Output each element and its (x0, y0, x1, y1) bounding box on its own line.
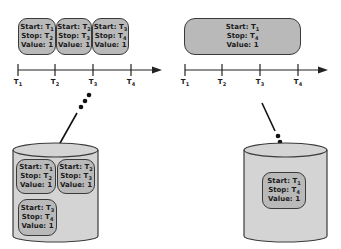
left-tick-label: T4 (127, 78, 135, 87)
left-storage-record-1: Start: T1 Stop: T2 Value: 1 (16, 159, 56, 194)
right-tick-label: T3 (256, 78, 264, 87)
left-segment-3: Start: T3 Stop: T4 Value: 1 (92, 18, 129, 55)
right-timeline-axis (185, 64, 328, 76)
left-tick-label: T2 (51, 78, 59, 87)
left-segment-2: Start: T2 Stop: T3 Value: 1 (56, 18, 92, 55)
right-segment-1: Start: T1 Stop: T4 Value: 1 (184, 18, 301, 55)
right-tick-label: T4 (294, 78, 302, 87)
right-storage-record-1: Start: T1 Stop: T4 Value: 1 (262, 172, 306, 209)
right-tick-label: T2 (218, 78, 226, 87)
left-segment-1: Start: T1 Stop: T2 Value: 1 (18, 18, 56, 55)
left-timeline-axis (18, 64, 162, 76)
right-tick-label: T1 (181, 78, 189, 87)
left-tick-label: T1 (14, 78, 22, 87)
left-storage-record-3: Start: T3 Stop: T4 Value: 1 (18, 199, 57, 236)
left-tick-label: T3 (89, 78, 97, 87)
left-storage-record-2: Start: T2 Stop: T3 Value: 1 (57, 159, 95, 194)
